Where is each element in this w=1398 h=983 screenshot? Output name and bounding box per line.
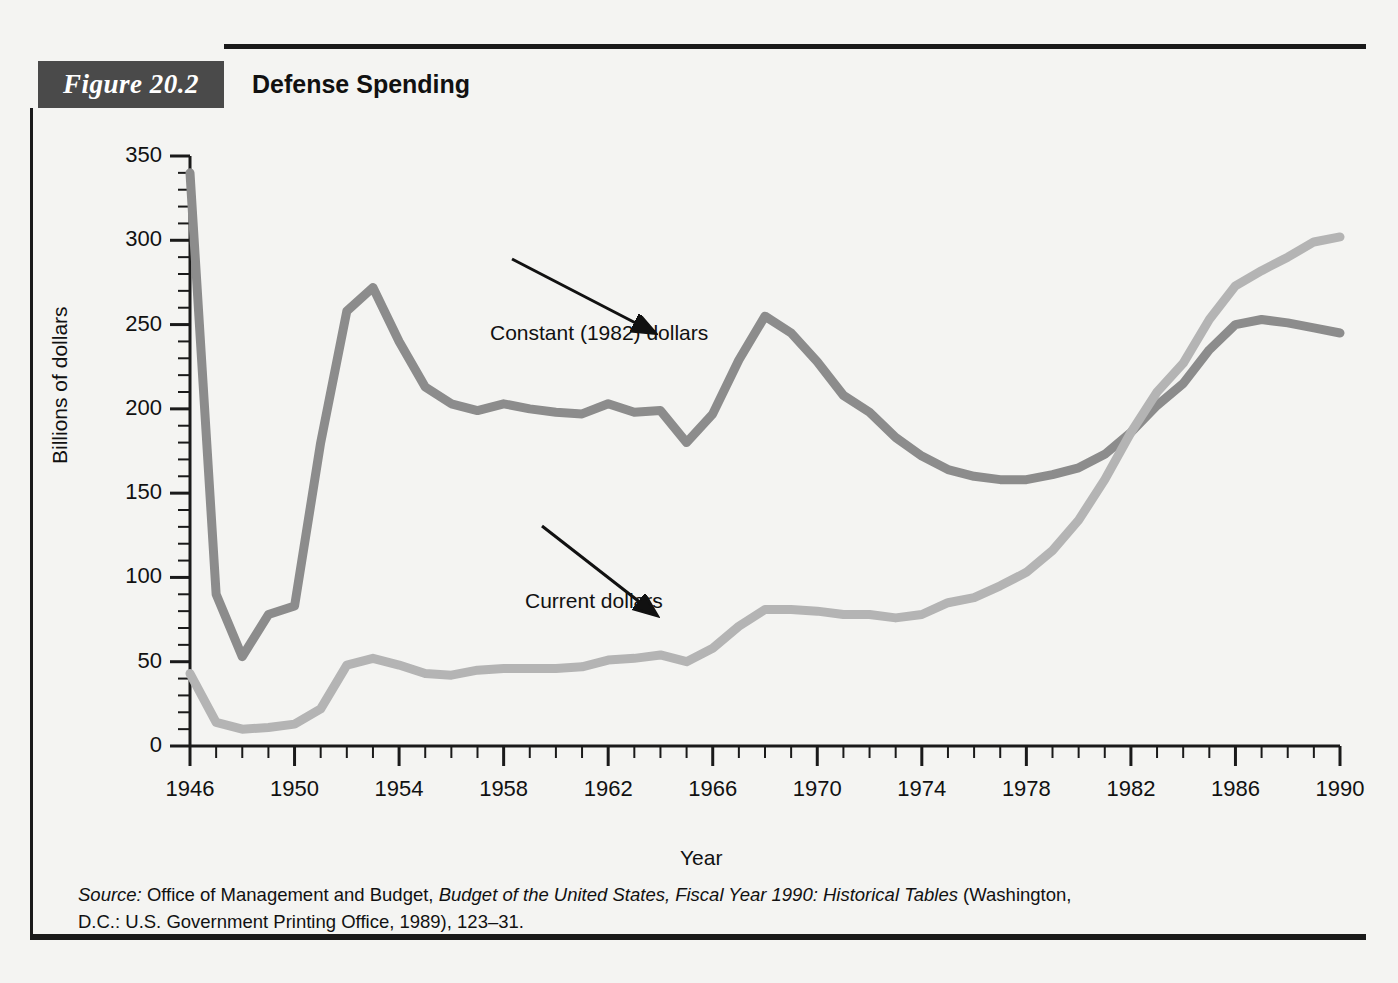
annotation-label-constant-dollars: Constant (1982) dollars	[490, 321, 708, 345]
frame-left-rule	[30, 108, 33, 939]
x-axis-title: Year	[680, 846, 722, 870]
y-axis-title: Billions of dollars	[48, 306, 72, 464]
x-tick-label: 1966	[663, 776, 763, 802]
x-tick-label: 1962	[558, 776, 658, 802]
y-axis-major-ticks	[170, 156, 190, 746]
x-tick-label: 1982	[1081, 776, 1181, 802]
y-tick-label: 200	[70, 395, 162, 421]
y-tick-label: 50	[70, 648, 162, 674]
x-tick-label: 1978	[976, 776, 1076, 802]
source-note: Source: Office of Management and Budget,…	[78, 882, 1088, 936]
y-tick-label: 250	[70, 311, 162, 337]
figure-number-label: Figure 20.2	[63, 69, 199, 100]
line-chart-svg	[70, 134, 1360, 874]
x-tick-label: 1990	[1290, 776, 1390, 802]
source-lead: Source:	[78, 884, 142, 905]
series-line-current-dollars	[190, 237, 1340, 729]
figure-frame: Figure 20.2 Defense Spending	[30, 44, 1366, 939]
y-tick-label: 0	[70, 732, 162, 758]
source-italic-title: Budget of the United States, Fiscal Year…	[439, 884, 958, 905]
frame-top-rule	[224, 44, 1366, 49]
x-tick-label: 1958	[454, 776, 554, 802]
figure-page: Figure 20.2 Defense Spending	[0, 0, 1398, 983]
x-tick-label: 1946	[140, 776, 240, 802]
x-tick-label: 1954	[349, 776, 449, 802]
x-tick-label: 1986	[1185, 776, 1285, 802]
y-tick-label: 350	[70, 142, 162, 168]
x-tick-label: 1970	[767, 776, 867, 802]
chart-plot-area: Billions of dollars Year 050100150200250…	[70, 134, 1360, 874]
figure-title: Defense Spending	[252, 70, 470, 99]
y-tick-label: 100	[70, 563, 162, 589]
figure-number-tab: Figure 20.2	[38, 61, 224, 108]
y-tick-label: 300	[70, 226, 162, 252]
series-line-constant-dollars	[190, 173, 1340, 657]
source-text-1: Office of Management and Budget,	[142, 884, 439, 905]
x-tick-label: 1974	[872, 776, 972, 802]
x-axis-minor-ticks	[216, 746, 1314, 758]
y-axis-minor-ticks	[178, 173, 190, 729]
y-tick-label: 150	[70, 479, 162, 505]
annotation-label-current-dollars: Current dollars	[525, 589, 663, 613]
annotation-arrows	[512, 259, 655, 614]
x-tick-label: 1950	[245, 776, 345, 802]
